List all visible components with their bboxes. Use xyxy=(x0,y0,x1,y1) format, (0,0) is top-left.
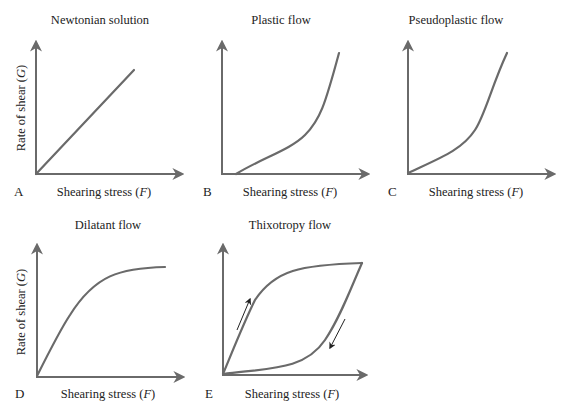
thixotropy-downcurve xyxy=(223,263,362,374)
y-axis-label: Rate of shear (G) xyxy=(14,269,28,355)
x-axis-label: Shearing stress (F) xyxy=(57,185,151,199)
thixotropy-upcurve xyxy=(223,263,362,374)
panel-letter-e: E xyxy=(205,386,213,401)
pseudoplastic-curve xyxy=(408,53,507,173)
plastic-curve xyxy=(236,53,339,174)
panel-d-title: Dilatant flow xyxy=(75,218,141,232)
decreasing-stress-arrow-icon xyxy=(330,319,345,348)
panel-a-title: Newtonian solution xyxy=(51,13,150,27)
panel-c-title: Pseudoplastic flow xyxy=(409,13,504,27)
panel-letter-d: D xyxy=(15,386,24,401)
newtonian-curve xyxy=(36,70,134,174)
panel-letter-b: B xyxy=(203,184,212,199)
dilatant-curve xyxy=(37,267,165,376)
x-axis-label: Shearing stress (F) xyxy=(61,387,155,401)
panel-e-title: Thixotropy flow xyxy=(249,218,331,232)
x-axis-label: Shearing stress (F) xyxy=(245,387,339,401)
x-axis-label: Shearing stress (F) xyxy=(429,185,523,199)
panel-b-title: Plastic flow xyxy=(251,13,310,27)
panel-letter-a: A xyxy=(14,184,24,199)
panel-b-plastic: Plastic flow B Shearing stress (F) xyxy=(203,13,368,199)
x-axis-label: Shearing stress (F) xyxy=(243,185,337,199)
rheology-figure: Newtonian solution Rate of shear (G) A S… xyxy=(0,0,561,409)
panel-e-thixotropy: Thixotropy flow E Shearing stress (F) xyxy=(205,218,366,401)
panel-c-pseudoplastic: Pseudoplastic flow C Shearing stress (F) xyxy=(388,13,554,199)
panel-a-newtonian: Newtonian solution Rate of shear (G) A S… xyxy=(14,13,182,199)
panel-d-dilatant: Dilatant flow Rate of shear (G) D Sheari… xyxy=(14,218,183,401)
y-axis-label: Rate of shear (G) xyxy=(14,65,28,151)
panel-letter-c: C xyxy=(388,184,397,199)
